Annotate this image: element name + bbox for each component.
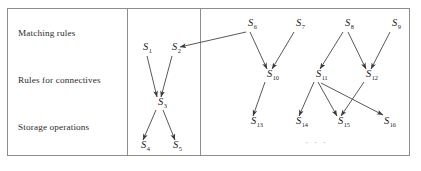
node-s12: S12	[366, 68, 378, 81]
row-label-storage-operations: Storage operations	[18, 122, 90, 132]
node-s2: S2	[172, 41, 181, 54]
node-subscript-s6: 6	[254, 23, 257, 30]
ellipsis-layer: · · ·	[305, 136, 328, 148]
node-s7: S7	[296, 17, 306, 30]
node-s10: S10	[267, 68, 279, 81]
node-subscript-s9: 9	[398, 23, 401, 30]
figure-root: Matching rulesRules for connectivesStora…	[0, 0, 421, 171]
row-label-matching-rules: Matching rules	[18, 28, 76, 38]
node-s5: S5	[173, 139, 182, 152]
edge-s3-to-s4	[143, 110, 156, 140]
nodes-layer: S1S2S3S4S5S6S7S8S9S10S11S12S13S14S15S16	[141, 17, 401, 152]
edge-s11-to-s15	[318, 82, 337, 116]
edge-s6-to-s2	[180, 32, 246, 47]
node-s14: S14	[296, 115, 309, 128]
edge-s10-to-s13	[253, 82, 265, 116]
edge-s2-to-s3	[161, 56, 172, 97]
diagram-canvas: Matching rulesRules for connectivesStora…	[0, 0, 421, 171]
node-subscript-s7: 7	[302, 23, 306, 30]
node-subscript-s16: 16	[390, 121, 396, 128]
edge-s7-to-s10	[272, 32, 294, 69]
node-subscript-s3: 3	[164, 102, 167, 109]
edge-s1-to-s3	[147, 56, 157, 97]
node-subscript-s11: 11	[322, 74, 328, 81]
edge-s12-to-s15	[341, 82, 364, 116]
node-s13: S13	[251, 115, 263, 128]
edge-s3-to-s5	[163, 110, 175, 140]
node-s3: S3	[158, 96, 167, 109]
edge-s6-to-s10	[250, 32, 267, 69]
edge-s8-to-s12	[348, 32, 366, 69]
node-s15: S15	[338, 115, 350, 128]
node-subscript-s14: 14	[302, 121, 309, 128]
node-subscript-s10: 10	[273, 74, 279, 81]
node-subscript-s4: 4	[147, 145, 151, 152]
node-s8: S8	[345, 17, 354, 30]
edge-s8-to-s11	[320, 32, 343, 69]
row-label-rules-for-connectives: Rules for connectives	[18, 75, 101, 85]
node-subscript-s1: 1	[149, 47, 152, 54]
node-subscript-s13: 13	[257, 121, 263, 128]
row-labels-layer: Matching rulesRules for connectivesStora…	[18, 28, 101, 132]
node-s9: S9	[392, 17, 401, 30]
continuation-ellipsis: · · ·	[305, 136, 328, 148]
node-subscript-s15: 15	[344, 121, 350, 128]
edge-s9-to-s12	[371, 32, 390, 69]
panel-dividers	[128, 9, 201, 156]
node-s16: S16	[384, 115, 396, 128]
node-subscript-s2: 2	[178, 47, 181, 54]
edge-s11-to-s14	[299, 82, 314, 116]
node-s6: S6	[248, 17, 257, 30]
node-subscript-s5: 5	[179, 145, 182, 152]
node-s4: S4	[141, 139, 151, 152]
node-s1: S1	[143, 41, 152, 54]
node-subscript-s8: 8	[351, 23, 354, 30]
node-s11: S11	[316, 68, 328, 81]
node-subscript-s12: 12	[372, 74, 378, 81]
